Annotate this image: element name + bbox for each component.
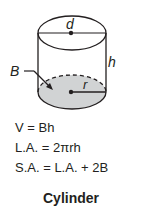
label-height: h	[108, 54, 116, 70]
lateral-area-formula: L.A. = 2πrh	[15, 138, 108, 158]
bottom-center-dot	[69, 90, 73, 94]
label-base: B	[10, 63, 19, 79]
label-diameter: d	[66, 16, 75, 32]
label-radius: r	[83, 77, 88, 92]
volume-formula: V = Bh	[15, 118, 108, 138]
surface-area-formula: S.A. = L.A. + 2B	[15, 158, 108, 178]
formula-list: V = Bh L.A. = 2πrh S.A. = L.A. + 2B	[15, 118, 108, 178]
cylinder-diagram: d h B r	[0, 0, 142, 120]
caption-text: Cylinder	[43, 190, 99, 206]
diagram-caption: Cylinder	[0, 190, 142, 206]
